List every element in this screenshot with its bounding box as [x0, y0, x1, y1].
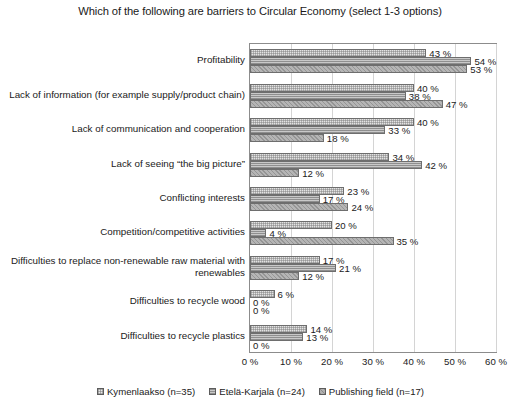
value-tick-label: 0 %	[242, 356, 259, 367]
bar-group-item: 4 %	[250, 229, 496, 237]
bar	[250, 195, 320, 203]
bar	[250, 229, 266, 237]
bar-group-item: 33 %	[250, 126, 496, 134]
legend-swatch-icon	[319, 388, 326, 395]
value-tick-label: 60 %	[485, 356, 507, 367]
bar-group-item: 35 %	[250, 237, 496, 245]
legend-label: Etelä-Karjala (n=24)	[219, 386, 305, 397]
bar-group-item: 0 %	[250, 341, 496, 349]
legend-label: Kymenlaakso (n=35)	[107, 386, 195, 397]
bar-value-label: 0 %	[250, 339, 270, 350]
bar	[250, 237, 394, 245]
legend-item[interactable]: Kymenlaakso (n=35)	[97, 386, 195, 397]
bar-group-item: 21 %	[250, 264, 496, 272]
gridline	[496, 44, 497, 352]
category-label: Lack of information (for example supply/…	[5, 88, 245, 101]
bar-group-item: 34 %	[250, 153, 496, 161]
bar-value-label: 12 %	[299, 167, 324, 178]
bar-group-item: 14 %	[250, 325, 496, 333]
bar	[250, 161, 422, 169]
category-label: Lack of communication and cooperation	[5, 123, 245, 136]
bar-group-item: 0 %	[250, 306, 496, 314]
category-label: Competition/competitive activities	[5, 226, 245, 239]
bar	[250, 84, 414, 92]
bar-value-label: 35 %	[394, 236, 419, 247]
chart-legend: Kymenlaakso (n=35)Etelä-Karjala (n=24)Pu…	[0, 386, 521, 397]
bar	[250, 134, 324, 142]
bar-group-item: 13 %	[250, 333, 496, 341]
bar-group-item: 54 %	[250, 57, 496, 65]
bar	[250, 65, 467, 73]
value-tick-label: 10 %	[280, 356, 302, 367]
value-tick-label: 30 %	[362, 356, 384, 367]
category-label: Difficulties to recycle plastics	[5, 330, 245, 343]
bar	[250, 221, 332, 229]
plot-area: 43 %54 %53 %40 %38 %47 %40 %33 %18 %34 %…	[249, 43, 497, 353]
bar	[250, 57, 471, 65]
bar-group-item: 47 %	[250, 100, 496, 108]
bar-value-label: 0 %	[250, 305, 270, 316]
value-tick-label: 40 %	[403, 356, 425, 367]
category-axis-labels: ProfitabilityLack of information (for ex…	[5, 43, 245, 353]
bar	[250, 153, 389, 161]
bar-group-item: 17 %	[250, 256, 496, 264]
bar-group-item: 40 %	[250, 84, 496, 92]
bar-value-label: 47 %	[443, 98, 468, 109]
legend-swatch-icon	[209, 388, 216, 395]
bar-value-label: 24 %	[348, 202, 373, 213]
bar-group-item: 6 %	[250, 290, 496, 298]
bar-group-item: 43 %	[250, 49, 496, 57]
chart-title: Which of the following are barriers to C…	[60, 4, 460, 19]
bar-group-item: 42 %	[250, 161, 496, 169]
category-label: Difficulties to recycle wood	[5, 295, 245, 308]
category-label: Lack of seeing “the big picture”	[5, 157, 245, 170]
bar-group-item: 12 %	[250, 272, 496, 280]
bar	[250, 272, 299, 280]
bar-value-label: 18 %	[324, 133, 349, 144]
category-label: Conflicting interests	[5, 192, 245, 205]
value-tick-label: 50 %	[444, 356, 466, 367]
bar-group-item: 18 %	[250, 134, 496, 142]
bar	[250, 203, 348, 211]
legend-item[interactable]: Etelä-Karjala (n=24)	[209, 386, 305, 397]
bar-group-item: 20 %	[250, 221, 496, 229]
bar	[250, 49, 426, 57]
category-label: Profitability	[5, 54, 245, 67]
bar-group-item: 24 %	[250, 203, 496, 211]
legend-label: Publishing field (n=17)	[329, 386, 424, 397]
legend-item[interactable]: Publishing field (n=17)	[319, 386, 424, 397]
bar-chart: Which of the following are barriers to C…	[0, 0, 521, 409]
bar	[250, 92, 406, 100]
category-label: Difficulties to replace non-renewable ra…	[5, 254, 245, 279]
bar-value-label: 53 %	[467, 64, 492, 75]
bar	[250, 100, 443, 108]
legend-swatch-icon	[97, 388, 104, 395]
value-axis-labels: 0 %10 %20 %30 %40 %50 %60 %	[249, 356, 497, 372]
bar	[250, 325, 307, 333]
bar	[250, 256, 320, 264]
bar	[250, 126, 385, 134]
bar-group-item: 53 %	[250, 65, 496, 73]
bar-value-label: 12 %	[299, 270, 324, 281]
bar-group-item: 40 %	[250, 118, 496, 126]
value-tick-label: 20 %	[321, 356, 343, 367]
bar	[250, 169, 299, 177]
bar-group-item: 12 %	[250, 169, 496, 177]
bar-group-item: 23 %	[250, 187, 496, 195]
bar-group-item: 0 %	[250, 298, 496, 306]
